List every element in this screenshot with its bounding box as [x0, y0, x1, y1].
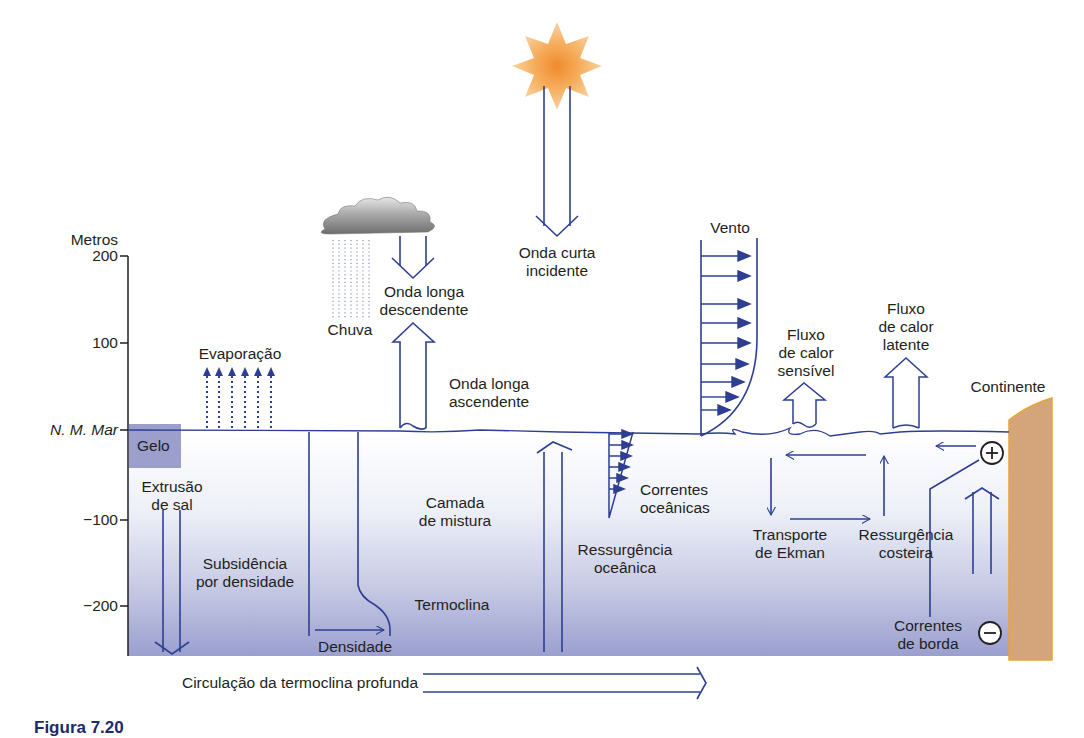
- ekman-transport-label: Transportede Ekman: [745, 526, 835, 562]
- latent-heat-label: Fluxode calorlatente: [870, 300, 942, 354]
- longwave-ascending-label: Onda longaascendente: [449, 375, 529, 411]
- rain-label: Chuva: [318, 321, 382, 339]
- boundary-currents-label: Correntesde borda: [880, 617, 976, 653]
- longwave-ascending-arrow: [393, 323, 434, 429]
- longwave-descending-label: Onda longadescendente: [372, 283, 476, 319]
- wind-profile: [701, 238, 757, 436]
- latent-heat-arrow: [885, 358, 927, 428]
- ocean-currents-label: Correntesoceânicas: [640, 481, 710, 517]
- longwave-descending-arrow: [392, 236, 434, 278]
- minus-circle-icon: [979, 622, 1001, 644]
- figure-caption-partial: Figura 7.20: [34, 718, 124, 738]
- wind-label: Vento: [700, 219, 760, 237]
- axis-tick-200: 200: [40, 247, 118, 265]
- sensible-heat-label: Fluxode calorsensível: [770, 326, 842, 380]
- axis-tick-sea-level: N. M. Mar: [10, 421, 118, 439]
- cloud-icon: [321, 197, 435, 234]
- axis-tick-100: 100: [40, 334, 118, 352]
- axis-tick-minus100: −100: [40, 511, 118, 529]
- continent-shape: [1009, 398, 1052, 660]
- density-label: Densidade: [308, 638, 402, 656]
- coastal-upwelling-label: Ressurgênciacosteira: [850, 526, 962, 562]
- oceanic-upwelling-label: Ressurgênciaoceânica: [570, 541, 680, 577]
- rain-icon: [333, 240, 369, 320]
- plus-circle-icon: [981, 442, 1003, 464]
- thermocline-label: Termoclina: [404, 596, 500, 614]
- mixed-layer-label: Camadade mistura: [400, 494, 510, 530]
- deep-circulation-label: Circulação da termoclina profunda: [180, 674, 420, 692]
- y-axis: [120, 256, 128, 656]
- evaporation-arrows: [203, 367, 275, 428]
- sensible-heat-arrow: [784, 383, 825, 427]
- continent-label: Continente: [958, 378, 1058, 396]
- density-subsidence-label: Subsidênciapor densidade: [180, 555, 310, 591]
- sun-icon: [512, 22, 602, 110]
- shortwave-incident-label: Onda curtaincidente: [507, 244, 607, 280]
- ice-label: Gelo: [137, 437, 170, 455]
- evaporation-label: Evaporação: [190, 345, 290, 363]
- deep-circulation-arrow: [423, 667, 706, 699]
- salt-extrusion-label: Extrusãode sal: [132, 478, 212, 514]
- wind-arrows: [701, 251, 750, 415]
- axis-tick-minus200: −200: [40, 597, 118, 615]
